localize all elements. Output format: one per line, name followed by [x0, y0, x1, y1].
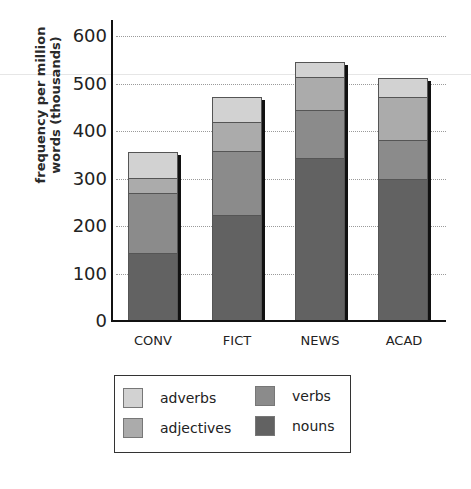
bar-segment-acad-adjectives [378, 97, 428, 140]
bar-segment-news-adjectives [295, 77, 345, 110]
bar-segment-acad-nouns [378, 179, 428, 321]
y-axis-title-line-1: frequency per million [33, 27, 48, 184]
legend: adverbs adjectives verbs nouns [114, 375, 351, 453]
x-axis-line [111, 320, 446, 322]
bar-segment-conv-nouns [128, 253, 178, 321]
scan-artifact-line [0, 74, 471, 75]
bar-shadow [345, 65, 348, 321]
y-tick-label: 100 [73, 265, 107, 283]
legend-item-adjectives: adjectives [123, 418, 231, 438]
legend-label: nouns [292, 418, 334, 434]
bar-segment-fict-verbs [212, 151, 262, 215]
bar-segment-fict-adverbs [212, 97, 262, 122]
legend-label: verbs [292, 388, 331, 404]
x-tick-label: NEWS [300, 333, 339, 348]
legend-swatch-adverbs [123, 388, 143, 408]
legend-item-verbs: verbs [255, 386, 331, 406]
bar-segment-conv-adverbs [128, 152, 178, 178]
bar-segment-news-nouns [295, 158, 345, 321]
bar-segment-conv-adjectives [128, 178, 178, 193]
y-tick-label: 200 [73, 217, 107, 235]
bar-segment-news-adverbs [295, 62, 345, 77]
gridline [116, 36, 446, 37]
bar-shadow [428, 81, 431, 321]
bar-shadow [178, 155, 181, 321]
legend-swatch-verbs [255, 386, 275, 406]
y-axis-title-line-2: words (thousands) [48, 27, 63, 184]
legend-item-nouns: nouns [255, 416, 334, 436]
legend-swatch-nouns [255, 416, 275, 436]
y-tick-label: 300 [73, 170, 107, 188]
x-tick-label: ACAD [386, 333, 423, 348]
bar-segment-acad-verbs [378, 140, 428, 179]
y-tick-label: 600 [73, 27, 107, 45]
y-tick-label: 400 [73, 122, 107, 140]
x-tick-label: FICT [223, 333, 251, 348]
legend-swatch-adjectives [123, 418, 143, 438]
bar-segment-news-verbs [295, 110, 345, 158]
y-axis-title: frequency per million words (thousands) [33, 27, 63, 184]
bar-segment-fict-adjectives [212, 122, 262, 151]
y-tick-label: 0 [96, 312, 107, 330]
legend-label: adjectives [160, 420, 231, 436]
bar-segment-acad-adverbs [378, 78, 428, 97]
legend-item-adverbs: adverbs [123, 388, 216, 408]
y-axis-line [111, 20, 113, 322]
y-tick-label: 500 [73, 75, 107, 93]
bar-segment-conv-verbs [128, 193, 178, 253]
x-tick-label: CONV [134, 333, 172, 348]
bar-segment-fict-nouns [212, 215, 262, 321]
bar-shadow [262, 100, 265, 321]
legend-label: adverbs [160, 390, 216, 406]
